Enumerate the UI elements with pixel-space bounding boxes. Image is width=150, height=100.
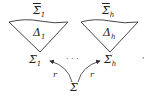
left-inner-label: Δ1	[33, 27, 45, 41]
left-bottom-label: Σ1	[29, 54, 41, 68]
source-label: Σ	[70, 82, 78, 93]
right-bottom-label: Σh	[104, 54, 116, 68]
ellipsis: · · ·	[66, 55, 79, 63]
right-inner-label: Δh	[103, 27, 115, 41]
arrow-right-label: r	[90, 71, 94, 79]
trailing-comma: ,	[142, 52, 145, 60]
right-top-label: Σ̄h	[102, 5, 114, 19]
left-top-label: Σ̄1	[33, 5, 45, 19]
arrow-right	[78, 61, 100, 82]
arrow-left-label: r	[53, 71, 57, 79]
